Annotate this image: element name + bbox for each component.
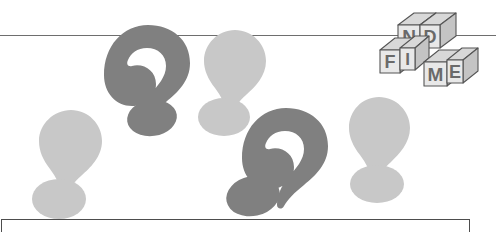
bottom-border-box: [1, 219, 470, 232]
question-mark-upper-left: [90, 23, 196, 131]
svg-text:I: I: [405, 50, 410, 69]
toy-blocks-find-me: N D F I: [377, 8, 496, 100]
question-mark-lower-center: [224, 104, 334, 214]
svg-text:F: F: [385, 52, 396, 72]
exclamation-mark-right: [339, 95, 419, 201]
svg-text:E: E: [449, 62, 461, 82]
find-me-graphic: N D F I: [0, 0, 496, 232]
svg-text:M: M: [428, 64, 444, 85]
